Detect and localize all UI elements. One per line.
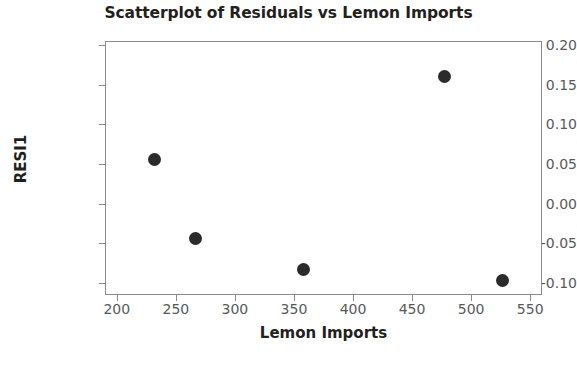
data-point [438,70,451,83]
x-tick-label: 500 [458,301,485,317]
x-tick-label: 350 [281,301,308,317]
x-axis-label: Lemon Imports [105,324,542,342]
data-point [496,274,509,287]
data-point [297,263,310,276]
x-tick-mark [353,295,354,301]
x-tick-label: 200 [103,301,130,317]
y-axis-label: RESI1 [12,114,30,204]
x-tick-label: 450 [399,301,426,317]
x-tick-mark [412,295,413,301]
data-point [189,232,202,245]
chart-title: Scatterplot of Residuals vs Lemon Import… [0,4,577,22]
x-tick-mark [235,295,236,301]
x-tick-label: 550 [517,301,544,317]
x-tick-label: 400 [340,301,367,317]
x-tick-label: 250 [162,301,189,317]
x-tick-mark [530,295,531,301]
data-point [148,153,161,166]
scatterplot-figure: Scatterplot of Residuals vs Lemon Import… [0,0,577,373]
x-tick-mark [176,295,177,301]
plot-area [105,41,542,295]
x-tick-label: 300 [222,301,249,317]
x-tick-mark [294,295,295,301]
x-tick-mark [471,295,472,301]
x-tick-mark [117,295,118,301]
